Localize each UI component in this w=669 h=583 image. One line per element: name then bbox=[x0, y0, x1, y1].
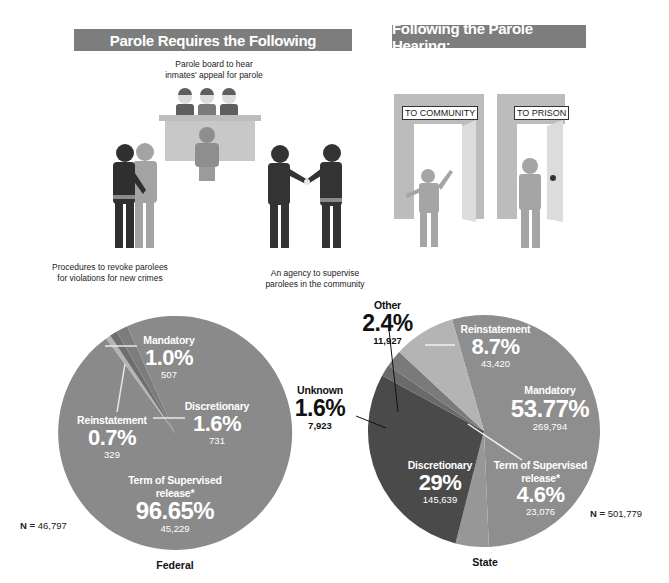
federal-discretionary-count: 731 bbox=[182, 436, 252, 446]
state-reinstatement-pct: 8.7% bbox=[458, 336, 533, 358]
state-term-pct: 4.6% bbox=[493, 484, 588, 506]
state-label-mandatory: Mandatory 53.77% 269,794 bbox=[510, 385, 590, 431]
state-other-name: Other bbox=[360, 300, 415, 311]
state-discretionary-name: Discretionary bbox=[405, 460, 475, 471]
federal-term-pct: 96.65% bbox=[125, 499, 225, 523]
federal-n-label: N = bbox=[20, 520, 35, 531]
federal-term-count: 45,229 bbox=[125, 524, 225, 534]
state-n-value: 501,779 bbox=[608, 508, 642, 519]
state-reinstatement-name: Reinstatement bbox=[458, 324, 533, 335]
board-caption-line2: inmates' appeal for parole bbox=[150, 70, 278, 81]
header-parole-requires: Parole Requires the Following bbox=[74, 29, 352, 51]
state-label-other: Other 2.4% 11,927 bbox=[360, 300, 415, 345]
federal-reinstatement-name: Reinstatement bbox=[76, 415, 148, 426]
revoke-officers-icon bbox=[100, 140, 170, 255]
federal-mandatory-name: Mandatory bbox=[138, 335, 200, 346]
state-label-term: Term of Supervised release* 4.6% 23,076 bbox=[493, 460, 588, 517]
state-pie-title: State bbox=[460, 556, 510, 568]
board-caption: Parole board to hear inmates' appeal for… bbox=[150, 59, 278, 81]
state-unknown-name: Unknown bbox=[290, 385, 350, 396]
federal-reinstatement-pct: 0.7% bbox=[76, 427, 148, 449]
federal-pie-title: Federal bbox=[150, 559, 200, 571]
state-discretionary-count: 145,639 bbox=[405, 495, 475, 505]
federal-discretionary-pct: 1.6% bbox=[182, 413, 252, 435]
federal-mandatory-count: 507 bbox=[138, 370, 200, 380]
header-following-hearing: Following the Parole Hearing: bbox=[392, 25, 586, 48]
door-prison-sign: TO PRISON bbox=[514, 106, 569, 120]
state-unknown-pct: 1.6% bbox=[290, 397, 350, 420]
federal-n-total: N = 46,797 bbox=[20, 520, 67, 531]
state-other-pct: 2.4% bbox=[360, 312, 415, 335]
header-following-hearing-text: Following the Parole Hearing: bbox=[392, 20, 586, 54]
federal-label-mandatory: Mandatory 1.0% 507 bbox=[138, 335, 200, 379]
revoke-caption-line1: Procedures to revoke parolees bbox=[40, 262, 180, 273]
agency-handshake-icon bbox=[260, 138, 355, 253]
state-discretionary-pct: 29% bbox=[405, 472, 475, 494]
state-other-count: 11,927 bbox=[360, 336, 415, 346]
agency-caption-line1: An agency to supervise bbox=[255, 268, 375, 279]
state-unknown-count: 7,923 bbox=[290, 421, 350, 431]
federal-term-name-line1: Term of Supervised bbox=[125, 475, 225, 486]
federal-reinstatement-count: 329 bbox=[76, 450, 148, 460]
state-mandatory-count: 269,794 bbox=[510, 422, 590, 432]
state-mandatory-name: Mandatory bbox=[510, 385, 590, 396]
state-label-reinstatement: Reinstatement 8.7% 43,420 bbox=[458, 324, 533, 368]
state-n-total: N = 501,779 bbox=[590, 508, 642, 519]
board-caption-line1: Parole board to hear bbox=[150, 59, 278, 70]
federal-mandatory-pct: 1.0% bbox=[138, 347, 200, 369]
state-n-label: N = bbox=[590, 508, 605, 519]
federal-label-reinstatement: Reinstatement 0.7% 329 bbox=[76, 415, 148, 459]
parole-board-icon bbox=[155, 85, 265, 185]
state-term-name-line1: Term of Supervised bbox=[493, 460, 588, 471]
state-reinstatement-count: 43,420 bbox=[458, 359, 533, 369]
state-label-discretionary: Discretionary 29% 145,639 bbox=[405, 460, 475, 504]
federal-n-value: 46,797 bbox=[38, 520, 67, 531]
door-community-sign: TO COMMUNITY bbox=[402, 106, 478, 120]
federal-pie-chart bbox=[0, 280, 340, 583]
header-parole-requires-text: Parole Requires the Following bbox=[110, 32, 316, 49]
state-label-unknown: Unknown 1.6% 7,923 bbox=[290, 385, 350, 430]
federal-label-term: Term of Supervised release* 96.65% 45,22… bbox=[125, 475, 225, 534]
state-term-count: 23,076 bbox=[493, 507, 588, 517]
federal-label-discretionary: Discretionary 1.6% 731 bbox=[182, 401, 252, 445]
state-mandatory-pct: 53.77% bbox=[510, 397, 590, 421]
federal-discretionary-name: Discretionary bbox=[182, 401, 252, 412]
